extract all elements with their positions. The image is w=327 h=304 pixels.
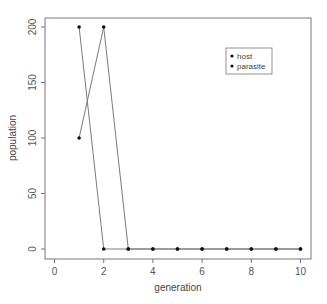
- x-tick-label: 4: [150, 266, 156, 277]
- point-host: [77, 25, 81, 29]
- point-parasite: [102, 25, 106, 29]
- x-tick-label: 2: [101, 266, 107, 277]
- x-tick-label: 0: [52, 266, 58, 277]
- x-axis: 0246810: [52, 259, 307, 277]
- point-parasite: [200, 247, 204, 251]
- legend-label-host: host: [237, 52, 253, 61]
- chart: 050100150200 0246810 generation populati…: [0, 0, 327, 304]
- point-parasite: [176, 247, 180, 251]
- legend: host parasite: [226, 48, 272, 74]
- point-parasite: [151, 247, 155, 251]
- y-tick-label: 200: [27, 18, 38, 35]
- x-tick-label: 6: [199, 266, 205, 277]
- legend-label-parasite: parasite: [237, 62, 266, 71]
- legend-marker-host: [230, 54, 233, 57]
- point-parasite: [250, 247, 254, 251]
- y-axis-label: population: [7, 115, 18, 161]
- point-parasite: [77, 136, 81, 140]
- point-parasite: [299, 247, 303, 251]
- point-parasite: [127, 247, 131, 251]
- y-axis: 050100150200: [27, 18, 45, 252]
- legend-marker-parasite: [230, 64, 233, 67]
- point-parasite: [274, 247, 278, 251]
- x-tick-label: 10: [295, 266, 307, 277]
- y-tick-label: 100: [27, 129, 38, 146]
- x-tick-label: 8: [249, 266, 255, 277]
- y-tick-label: 50: [27, 188, 38, 200]
- point-host: [102, 247, 106, 251]
- point-parasite: [225, 247, 229, 251]
- y-tick-label: 150: [27, 74, 38, 91]
- x-axis-label: generation: [154, 282, 201, 293]
- y-tick-label: 0: [27, 246, 38, 252]
